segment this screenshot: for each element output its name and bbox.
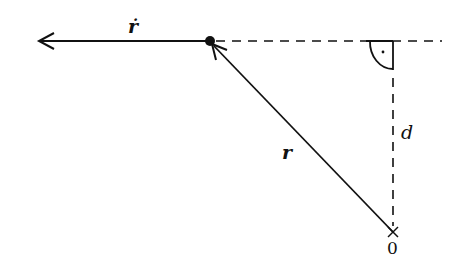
right-angle-dot-icon — [382, 51, 385, 54]
diagram-canvas: ṙ r d 0 — [0, 0, 464, 271]
velocity-vector — [39, 33, 210, 49]
position-vector — [212, 44, 393, 232]
position-label: r — [282, 141, 294, 163]
velocity-label: ṙ — [128, 15, 140, 37]
origin-cross-icon — [388, 227, 398, 237]
distance-label: d — [401, 121, 413, 143]
right-angle-marker — [366, 41, 393, 70]
particle-point — [205, 36, 215, 46]
origin-label: 0 — [387, 238, 398, 258]
